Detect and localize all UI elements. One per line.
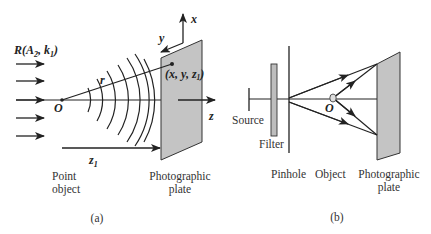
point-object-label-2: object xyxy=(52,183,81,196)
plate-point xyxy=(170,62,174,66)
origin-label-a: O xyxy=(54,101,63,115)
distance-label: z1 xyxy=(88,153,98,169)
radius-ray xyxy=(62,64,172,100)
filter xyxy=(271,64,277,136)
filter-label: Filter xyxy=(259,138,284,150)
incident-wave-label: R(A2, k1) xyxy=(13,43,58,59)
caption-b: (b) xyxy=(330,211,344,224)
origin-label-b: O xyxy=(325,101,334,115)
z-axis-label: z xyxy=(208,109,214,123)
radius-label: r xyxy=(100,73,105,87)
panel-a: R(A2, k1) O r (x, y, z1) x y z z1 Point … xyxy=(13,12,215,225)
hologram-diagram: R(A2, k1) O r (x, y, z1) x y z z1 Point … xyxy=(0,0,431,234)
plate-label-a-2: plate xyxy=(169,183,191,196)
object-label: Object xyxy=(315,168,346,181)
x-axis-label: x xyxy=(190,12,197,26)
plate-label-a: Photographic xyxy=(149,170,210,183)
source-label: Source xyxy=(232,114,264,126)
pinhole-label: Pinhole xyxy=(271,168,306,180)
plate-label-b: Photographic xyxy=(358,168,419,181)
plate-label-b-2: plate xyxy=(378,181,400,194)
y-axis-label: y xyxy=(157,31,165,45)
photographic-plate-b xyxy=(377,52,400,160)
point-object-label: Point xyxy=(52,170,77,182)
caption-a: (a) xyxy=(91,212,104,225)
panel-b: O Source Filter Pinhole Object Photograp… xyxy=(232,46,420,224)
